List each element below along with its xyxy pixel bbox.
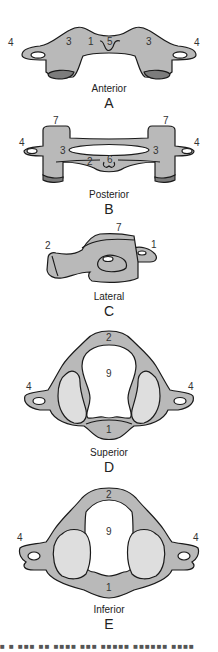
view-name-lateral: Lateral [94,291,125,302]
superior-right-foramen [174,398,186,405]
posterior-left-foramen [27,149,37,154]
atlas-vertebra-diagram: 4 3 1 5 3 4 Anterior A 7 7 4 4 3 3 2 6 P… [0,0,218,652]
lateral-facet-hole [138,251,146,255]
label-7: 7 [163,115,169,126]
label-4: 4 [17,532,23,543]
view-letter-a: A [104,95,114,111]
label-2: 2 [106,489,112,500]
inferior-left-foramen [28,552,40,560]
view-superior: 2 9 4 4 1 Superior D [25,331,194,475]
superior-vertebral-foramen [82,345,136,418]
label-3: 3 [66,36,72,47]
label-4: 4 [8,37,14,48]
anterior-left-foramen [31,52,45,58]
view-letter-c: C [104,303,114,319]
view-letter-d: D [104,459,114,475]
view-letter-b: B [104,201,113,217]
view-name-anterior: Anterior [91,83,127,94]
view-lateral: 2 7 1 Lateral C [45,222,157,319]
label-4: 4 [26,381,32,392]
label-3: 3 [146,36,152,47]
posterior-right-foramen [182,149,192,154]
label-1: 1 [151,239,157,250]
label-3: 3 [153,145,159,156]
label-3: 3 [60,145,66,156]
label-4: 4 [193,532,199,543]
view-letter-e: E [104,616,113,632]
label-4: 4 [194,137,200,148]
label-1: 1 [106,424,112,435]
label-2: 2 [45,240,51,251]
view-name-inferior: Inferior [93,604,125,615]
inferior-vertebral-foramen [84,500,135,576]
label-4: 4 [188,381,194,392]
label-5: 5 [107,36,113,47]
lateral-transverse-foramen [103,257,113,262]
label-2: 2 [87,156,93,167]
view-posterior: 7 7 4 4 3 3 2 6 Posterior B [19,115,200,217]
anterior-bone-outline [22,27,196,77]
view-anterior: 4 3 1 5 3 4 Anterior A [8,27,200,111]
anterior-right-foramen [173,52,187,58]
label-7: 7 [116,222,122,233]
label-1: 1 [88,36,94,47]
label-2: 2 [106,332,112,343]
inferior-right-articular-facet [128,530,165,579]
lateral-body-outline [47,234,138,283]
view-name-posterior: Posterior [89,189,130,200]
label-9: 9 [106,368,112,379]
view-name-superior: Superior [90,447,128,458]
inferior-right-foramen [178,552,190,560]
inferior-left-articular-facet [53,530,90,579]
label-6: 6 [107,154,113,165]
label-4: 4 [19,137,25,148]
view-inferior: 2 9 4 4 1 Inferior E [17,488,199,632]
superior-left-foramen [33,398,45,405]
label-9: 9 [106,526,112,537]
label-7: 7 [53,115,59,126]
label-1: 1 [106,582,112,593]
figure-caption-cropped: ■ ■ ■■■ ■■ ■■■■ ■■■ ■■■■■ ■■■■■■ ■■■■ [0,642,218,651]
label-4: 4 [194,37,200,48]
